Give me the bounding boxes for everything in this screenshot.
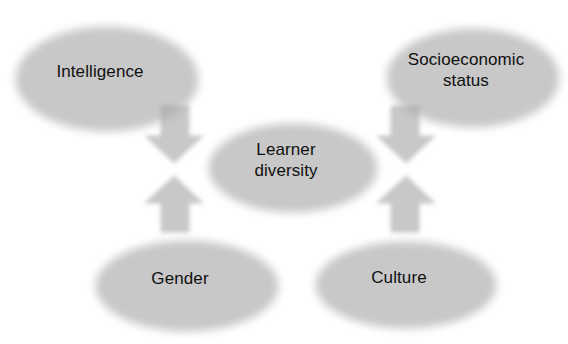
arrow-culture-to-center [373,171,431,227]
node-ellipse-culture[interactable] [309,234,489,320]
diagram-canvas: Intelligence Socioeconomic status Learne… [0,0,568,344]
node-ellipse-intelligence[interactable] [9,19,191,123]
node-ellipse-learner-diversity[interactable] [202,116,370,204]
diagram-graphic [0,0,568,344]
arrow-gender-to-center [141,171,199,227]
node-ellipse-socioeconomic-status[interactable] [380,21,552,119]
nodes-layer [9,19,552,323]
node-ellipse-gender[interactable] [89,233,271,323]
